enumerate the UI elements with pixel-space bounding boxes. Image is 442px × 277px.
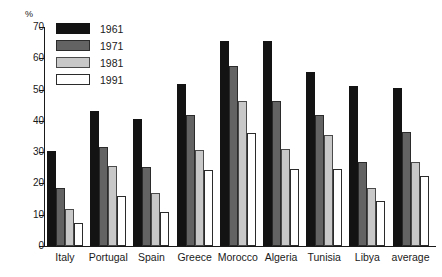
y-tick: 50 <box>0 90 44 91</box>
bar <box>133 119 142 246</box>
y-tick-label: 0 <box>18 241 44 251</box>
y-tick: 30 <box>0 152 44 153</box>
bar <box>229 66 238 246</box>
bar <box>281 149 290 246</box>
legend-label: 1991 <box>100 74 123 86</box>
bar <box>420 176 429 246</box>
legend-swatch <box>56 74 90 85</box>
bar <box>117 196 126 246</box>
legend-label: 1961 <box>100 23 123 35</box>
bar <box>204 170 213 246</box>
y-tick-label: 10 <box>18 210 44 220</box>
y-tick: 10 <box>0 215 44 216</box>
bar <box>306 72 315 246</box>
bar <box>238 101 247 246</box>
x-axis-line <box>44 246 436 247</box>
legend-label: 1971 <box>100 40 123 52</box>
legend-swatch <box>56 57 90 68</box>
bar <box>367 188 376 246</box>
bar <box>247 133 256 246</box>
y-tick-label: 70 <box>18 22 44 32</box>
legend-swatch <box>56 23 90 34</box>
bar <box>263 41 272 246</box>
legend-swatch <box>56 40 90 51</box>
bar <box>358 162 367 246</box>
bar <box>349 86 358 246</box>
bar-group <box>177 27 213 246</box>
bar <box>65 209 74 246</box>
bar <box>142 167 151 246</box>
y-tick: 60 <box>0 58 44 59</box>
y-tick-label: 20 <box>18 178 44 188</box>
bar <box>108 166 117 246</box>
y-tick-label: 40 <box>18 116 44 126</box>
bar-chart: % 010203040506070 ItalyPortugalSpainGree… <box>0 0 442 277</box>
y-tick-label: 50 <box>18 85 44 95</box>
bar <box>290 169 299 246</box>
y-tick-label: 60 <box>18 53 44 63</box>
x-axis-label: average <box>371 251 442 263</box>
bar <box>315 115 324 246</box>
y-tick-label: 30 <box>18 147 44 157</box>
bar <box>99 147 108 246</box>
bar <box>151 193 160 246</box>
bar <box>272 101 281 246</box>
y-tick: 70 <box>0 27 44 28</box>
bar <box>186 115 195 246</box>
bar <box>47 151 56 246</box>
bar <box>393 88 402 246</box>
bar-group <box>263 27 299 246</box>
y-tick: 20 <box>0 183 44 184</box>
y-axis-unit-label: % <box>25 9 33 19</box>
bar <box>56 188 65 246</box>
bar-group <box>349 27 385 246</box>
bar-group <box>133 27 169 246</box>
bar <box>195 150 204 246</box>
y-tick: 40 <box>0 121 44 122</box>
bar <box>74 223 83 246</box>
bar <box>220 41 229 246</box>
legend-label: 1981 <box>100 57 123 69</box>
bar <box>160 212 169 246</box>
bar-group <box>220 27 256 246</box>
bar-group <box>393 27 429 246</box>
y-tick: 0 <box>0 246 44 247</box>
bar <box>333 169 342 246</box>
bar-group <box>306 27 342 246</box>
bar <box>411 162 420 246</box>
bar <box>402 132 411 246</box>
bar <box>376 201 385 246</box>
bar <box>90 111 99 246</box>
bar <box>324 135 333 246</box>
bar <box>177 84 186 246</box>
